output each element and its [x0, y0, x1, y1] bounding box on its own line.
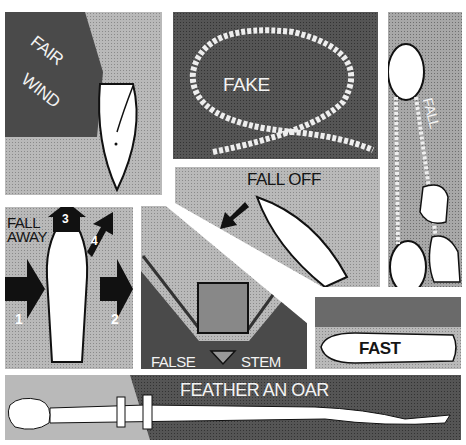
false-label: FALSE — [151, 354, 195, 369]
fall-off-label: FALL OFF — [247, 171, 321, 188]
fake-label: FAKE — [223, 75, 270, 94]
panel-fake: FAKE — [173, 12, 378, 159]
stem-label: STEM — [241, 354, 281, 369]
arrow-2-icon — [100, 259, 133, 319]
panel-fall-away: FALL AWAY 1 2 3 4 — [5, 207, 133, 369]
block-and-tackle-icon — [388, 12, 462, 287]
arrow-1-icon — [5, 259, 45, 319]
arrow-3-label: 3 — [62, 213, 68, 225]
fast-label: FAST — [359, 340, 400, 357]
feather-an-oar-label: FEATHER AN OAR — [180, 381, 329, 399]
arrow-4-label: 4 — [91, 235, 97, 247]
panel-feather-an-oar: FEATHER AN OAR — [5, 375, 461, 440]
panel-fair-wind: FAIR WIND — [5, 12, 162, 195]
panel-fall: FALL — [388, 12, 462, 287]
fall-away-label-line2: AWAY — [7, 229, 47, 244]
arrow-2-label: 2 — [111, 312, 118, 326]
fair-wind-illustration — [5, 12, 162, 195]
arrow-1-label: 1 — [15, 312, 22, 326]
coiled-rope-icon — [173, 12, 378, 159]
panel-fast: FAST — [315, 297, 461, 369]
fast-illustration — [315, 297, 461, 369]
